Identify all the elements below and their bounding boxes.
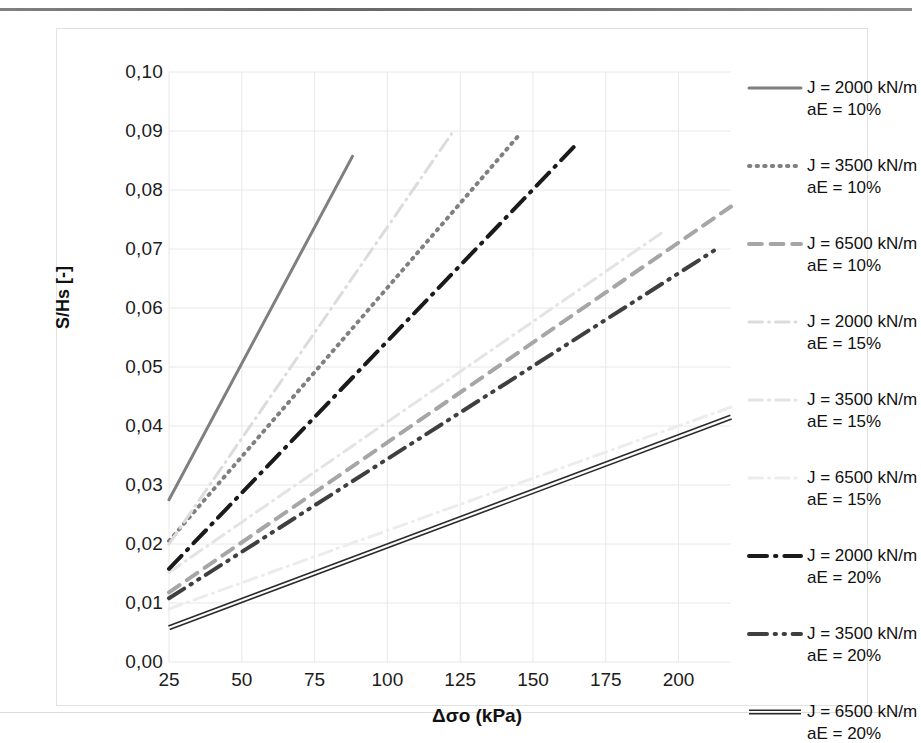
x-tick-label: 200	[644, 669, 714, 691]
y-tick-label: 0,03	[101, 474, 163, 496]
legend-label: J = 3500 kN/maE = 20%	[807, 623, 917, 667]
x-tick-label: 75	[280, 669, 350, 691]
x-tick-label: 50	[207, 669, 277, 691]
series-line-2	[169, 207, 731, 593]
y-tick-label: 0,01	[101, 592, 163, 614]
legend-label: J = 2000 kN/maE = 10%	[807, 77, 917, 121]
plot-svg	[169, 72, 731, 662]
y-tick-label: 0,06	[101, 297, 163, 319]
legend-key-icon	[747, 545, 803, 566]
x-tick-label: 100	[352, 669, 422, 691]
legend-item-0[interactable]: J = 2000 kN/maE = 10%	[747, 77, 921, 129]
legend-label: J = 6500 kN/maE = 10%	[807, 233, 917, 277]
y-tick-label: 0,07	[101, 238, 163, 260]
series-line-3	[169, 134, 451, 544]
x-tick-label: 150	[498, 669, 568, 691]
legend-item-3[interactable]: J = 2000 kN/maE = 15%	[747, 311, 921, 363]
legend-item-5[interactable]: J = 6500 kN/maE = 15%	[747, 467, 921, 519]
legend-label-line1: J = 6500 kN/m	[807, 702, 917, 721]
series-line-8	[168, 415, 731, 629]
series-line-1	[169, 136, 518, 541]
plot-area	[169, 72, 731, 662]
x-tick-label: 125	[425, 669, 495, 691]
legend-label-line2: aE = 10%	[807, 255, 917, 277]
x-axis-title: Δσo (kPa)	[357, 705, 597, 727]
legend-label-line1: J = 3500 kN/m	[807, 156, 917, 175]
legend-label-line2: aE = 15%	[807, 411, 917, 433]
gridlines	[169, 72, 731, 662]
legend-label-line2: aE = 10%	[807, 99, 917, 121]
x-tick-label: 25	[134, 669, 204, 691]
x-axis-tick-labels: 255075100125150175200	[169, 669, 731, 701]
legend-label-line1: J = 2000 kN/m	[807, 546, 917, 565]
legend-label-line2: aE = 20%	[807, 567, 917, 589]
y-axis-tick-labels: 0,000,010,020,030,040,050,060,070,080,09…	[93, 72, 163, 662]
y-tick-label: 0,05	[101, 356, 163, 378]
y-tick-label: 0,04	[101, 415, 163, 437]
legend-item-4[interactable]: J = 3500 kN/maE = 15%	[747, 389, 921, 441]
legend-label: J = 2000 kN/maE = 20%	[807, 545, 917, 589]
legend-key-icon	[747, 623, 803, 644]
legend-key-icon	[747, 701, 803, 722]
legend-key-icon	[747, 155, 803, 176]
legend-label: J = 6500 kN/maE = 20%	[807, 701, 917, 743]
chart-frame: S/Hs [-] 0,000,010,020,030,040,050,060,0…	[56, 28, 868, 706]
legend-label-line1: J = 2000 kN/m	[807, 312, 917, 331]
legend-label: J = 3500 kN/maE = 15%	[807, 389, 917, 433]
legend-label: J = 6500 kN/maE = 15%	[807, 467, 917, 511]
legend-label-line2: aE = 10%	[807, 177, 917, 199]
scan-artifact-top-rule	[0, 8, 912, 11]
series-line-0	[169, 156, 352, 499]
legend-item-6[interactable]: J = 2000 kN/maE = 20%	[747, 545, 921, 597]
y-tick-label: 0,09	[101, 120, 163, 142]
legend-label-line2: aE = 15%	[807, 489, 917, 511]
legend-item-1[interactable]: J = 3500 kN/maE = 10%	[747, 155, 921, 207]
legend-label-line1: J = 6500 kN/m	[807, 468, 917, 487]
y-axis-title: S/Hs [-]	[53, 266, 74, 329]
series-line-5	[169, 407, 731, 609]
legend-key-icon	[747, 467, 803, 488]
legend-label-line2: aE = 20%	[807, 645, 917, 667]
legend-item-8[interactable]: J = 6500 kN/maE = 20%	[747, 701, 921, 743]
legend-label: J = 3500 kN/maE = 10%	[807, 155, 917, 199]
legend-key-icon	[747, 77, 803, 98]
x-tick-label: 175	[571, 669, 641, 691]
y-tick-label: 0,02	[101, 533, 163, 555]
legend-key-icon	[747, 233, 803, 254]
series-line-4	[169, 231, 664, 572]
legend-label-line1: J = 3500 kN/m	[807, 624, 917, 643]
y-tick-label: 0,10	[101, 61, 163, 83]
legend-key-icon	[747, 389, 803, 410]
chart-legend: J = 2000 kN/maE = 10%J = 3500 kN/maE = 1…	[747, 77, 921, 743]
legend-label-line1: J = 6500 kN/m	[807, 234, 917, 253]
legend-item-7[interactable]: J = 3500 kN/maE = 20%	[747, 623, 921, 675]
legend-label-line1: J = 2000 kN/m	[807, 78, 917, 97]
legend-label-line1: J = 3500 kN/m	[807, 390, 917, 409]
y-tick-label: 0,08	[101, 179, 163, 201]
legend-key-icon	[747, 311, 803, 332]
legend-label: J = 2000 kN/maE = 15%	[807, 311, 917, 355]
legend-item-2[interactable]: J = 6500 kN/maE = 10%	[747, 233, 921, 285]
legend-label-line2: aE = 15%	[807, 333, 917, 355]
legend-label-line2: aE = 20%	[807, 723, 917, 743]
